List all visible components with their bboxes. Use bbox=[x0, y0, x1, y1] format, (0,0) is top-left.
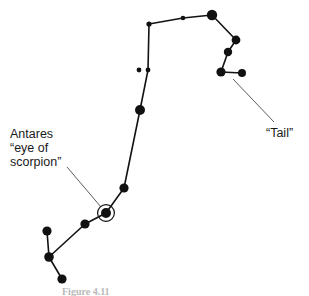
star-body-double-right bbox=[146, 68, 151, 73]
star-tail-stinger-left bbox=[216, 67, 225, 76]
tail-leader bbox=[233, 79, 274, 122]
star-body-double-left bbox=[137, 68, 142, 73]
star-claw-inner bbox=[80, 219, 89, 228]
figure-caption: Figure 4.11 bbox=[62, 286, 110, 296]
star-link-s9-s10 bbox=[140, 70, 148, 110]
star-tail-mid bbox=[224, 48, 232, 56]
antares-label-line1: Antares bbox=[10, 127, 53, 141]
star-tail-stinger-right bbox=[238, 69, 246, 77]
antares-leader bbox=[67, 167, 101, 207]
star-link-s1-s9 bbox=[148, 24, 149, 70]
antares-label-line3: scorpion” bbox=[10, 155, 61, 169]
star-link-s1-s2 bbox=[149, 18, 183, 24]
antares-label-line2: “eye of bbox=[10, 141, 49, 155]
star-antares bbox=[101, 208, 111, 218]
star-upper-right-bright bbox=[207, 10, 217, 20]
star-link-s13-s15 bbox=[49, 224, 85, 257]
tail-label-text: “Tail” bbox=[266, 126, 293, 140]
star-tail-upper bbox=[232, 36, 241, 45]
star-upper-mid-small bbox=[181, 16, 186, 21]
antares-label: Antares “eye of scorpion” bbox=[10, 127, 61, 169]
star-claw-lower bbox=[57, 274, 66, 283]
star-link-group bbox=[47, 15, 242, 279]
star-upper-left-small bbox=[146, 21, 151, 26]
tail-label: “Tail” bbox=[266, 126, 293, 140]
leader-line-group bbox=[67, 79, 274, 207]
star-link-s10-s11 bbox=[124, 110, 140, 188]
constellation-figure: Antares “eye of scorpion” “Tail” Figure … bbox=[0, 0, 309, 296]
star-body-mid-bright bbox=[135, 105, 145, 115]
star-claw-joint bbox=[44, 252, 54, 262]
figure-caption-text: Figure 4.11 bbox=[62, 286, 110, 296]
star-body-lower bbox=[119, 183, 128, 192]
star-group bbox=[42, 10, 246, 284]
star-claw-upper bbox=[42, 226, 51, 235]
constellation-diagram: Antares “eye of scorpion” “Tail” Figure … bbox=[0, 0, 309, 296]
